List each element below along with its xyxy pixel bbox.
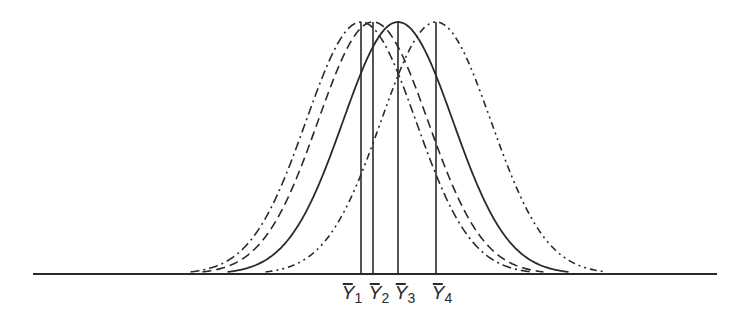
mean-label-y2: Y2 [369, 282, 389, 306]
mean-label-y3: Y3 [395, 282, 415, 306]
mean-lines [361, 22, 436, 274]
mean-label-y4: Y4 [432, 282, 452, 306]
mean-label-y1: Y1 [342, 282, 362, 306]
normal-curves-diagram [0, 0, 747, 319]
